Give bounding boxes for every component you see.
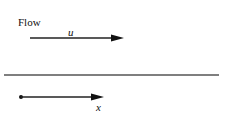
velocity-label: u [68,26,74,38]
flow-label: Flow [18,16,41,28]
flow-diagram: Flow u x [0,0,225,118]
position-arrow [19,94,104,101]
velocity-arrow [30,35,124,42]
position-label: x [96,101,101,113]
